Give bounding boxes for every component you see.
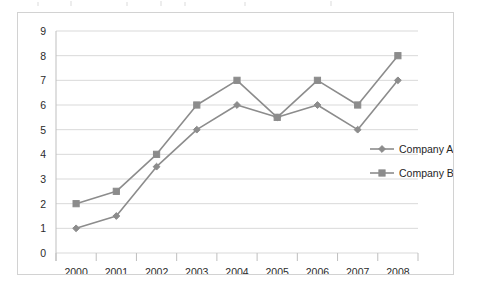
line-chart-svg: 0123456789 20002001200220032004200520062… [18, 13, 453, 274]
x-axis-tick-label: 2002 [145, 266, 169, 274]
x-axis-tick-label: 2004 [225, 266, 249, 274]
y-axis-tick-label: 0 [40, 247, 46, 259]
y-axis-tick-label: 7 [40, 74, 46, 86]
x-axis-tick-label: 2005 [266, 266, 290, 274]
gridlines-group [56, 31, 418, 253]
y-axis-tick-label: 9 [40, 25, 46, 37]
data-point-marker-square [153, 151, 159, 157]
data-point-marker-square [234, 77, 240, 83]
x-axis-tick-label: 2000 [64, 266, 88, 274]
data-point-marker-square [73, 201, 79, 207]
data-point-marker-square [355, 102, 361, 108]
legend-item-company-b[interactable]: Company B [370, 167, 453, 179]
x-axis-tick-label: 2001 [105, 266, 129, 274]
data-point-marker-square [113, 188, 119, 194]
legend-label: Company B [399, 167, 453, 179]
y-axis-tick-label: 2 [40, 198, 46, 210]
y-axis-tick-labels: 0123456789 [40, 25, 46, 259]
data-point-marker-diamond [379, 146, 386, 153]
data-point-marker-square [194, 102, 200, 108]
y-axis-tick-label: 8 [40, 50, 46, 62]
data-series-group [73, 53, 402, 232]
data-point-marker-square [395, 53, 401, 59]
legend-item-company-a[interactable]: Company A [370, 143, 453, 155]
y-axis-tick-label: 1 [40, 222, 46, 234]
data-point-marker-diamond [73, 225, 80, 232]
x-axis-tick-marks [56, 253, 418, 261]
x-axis-tick-label: 2007 [346, 266, 370, 274]
x-axis-tick-label: 2003 [185, 266, 209, 274]
y-axis-tick-label: 6 [40, 99, 46, 111]
chart-container: 0123456789 20002001200220032004200520062… [0, 0, 480, 289]
data-point-marker-square [274, 114, 280, 120]
y-axis-tick-label: 3 [40, 173, 46, 185]
y-axis-tick-label: 4 [40, 148, 46, 160]
x-axis-tick-label: 2006 [306, 266, 330, 274]
data-point-marker-square [314, 77, 320, 83]
x-axis-tick-labels: 200020012002200320042005200620072008 [64, 266, 409, 274]
scan-artifact-band [0, 0, 480, 10]
data-point-marker-square [379, 170, 385, 176]
legend-label: Company A [399, 143, 453, 155]
chart-legend: Company ACompany B [370, 143, 453, 179]
x-axis-tick-label: 2008 [386, 266, 410, 274]
y-axis-tick-label: 5 [40, 124, 46, 136]
chart-plot-frame: 0123456789 20002001200220032004200520062… [17, 12, 454, 275]
